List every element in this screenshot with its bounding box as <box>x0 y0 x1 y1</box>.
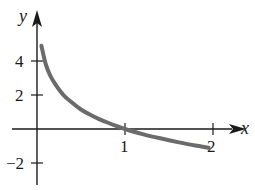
y-axis-label: y <box>17 6 27 26</box>
x-axis-label: x <box>240 118 249 138</box>
y-tick-label-4: 4 <box>15 52 24 71</box>
y-tick-label-2: 2 <box>15 86 24 105</box>
y-tick-label-neg2: −2 <box>6 154 24 173</box>
x-tick-label-1: 1 <box>120 137 129 156</box>
plot-area: y x 1 2 4 2 −2 <box>0 0 255 190</box>
x-tick-label-2: 2 <box>207 137 216 156</box>
function-graph: y x 1 2 4 2 −2 <box>0 0 255 190</box>
